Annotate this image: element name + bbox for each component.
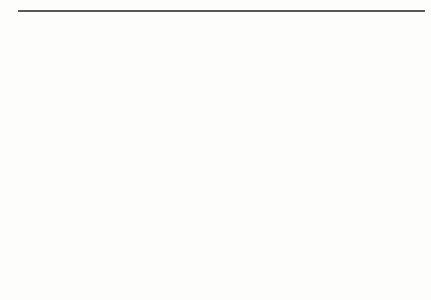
population-area-chart <box>0 0 431 300</box>
